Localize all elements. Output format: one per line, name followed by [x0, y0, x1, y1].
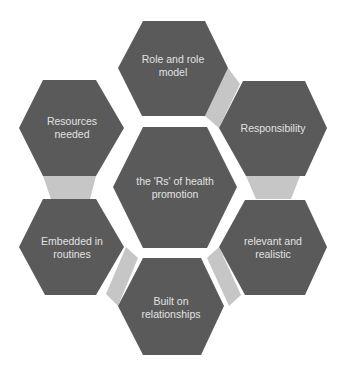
- connector-lower-left-to-upper-left: [43, 176, 96, 199]
- hexagon-bottom: [118, 258, 224, 355]
- connector-upper-right-to-lower-right: [246, 176, 300, 199]
- hexagon-lower-right: [219, 200, 327, 295]
- hexagon-center: [113, 127, 237, 248]
- hexagon-cycle-graphic: [0, 0, 347, 372]
- health-promotion-rs-diagram: Role and role model Responsibility relev…: [0, 0, 347, 372]
- hexagon-upper-left: [19, 80, 124, 176]
- hexagon-upper-right: [219, 81, 327, 176]
- hexagon-lower-left: [19, 199, 124, 295]
- hexagon-top: [118, 21, 228, 116]
